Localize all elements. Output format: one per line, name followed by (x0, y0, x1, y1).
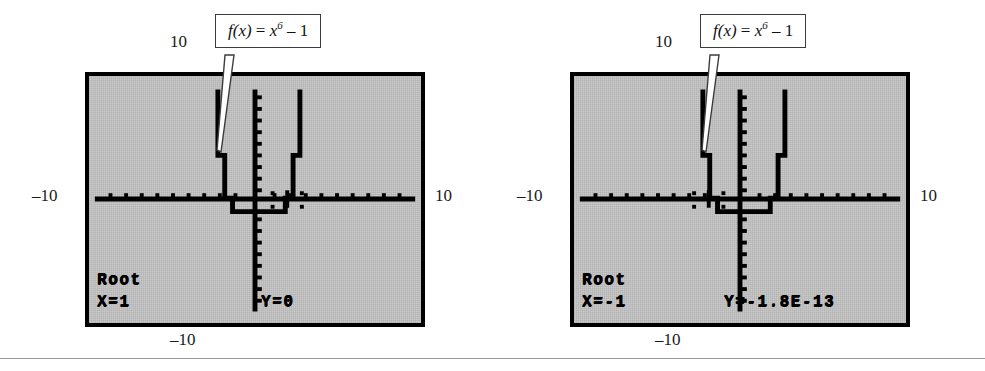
axis-label-bottom-left-panel: –10 (170, 330, 196, 350)
axis-label-bottom-right-panel: –10 (655, 330, 681, 350)
figure-container: 10 –10 –10 10 f(x) = x6 – 1 (0, 0, 985, 371)
readout-x-right: X=-1 (582, 294, 626, 311)
readout-title-left: Root (97, 272, 141, 289)
readout-y-right: Y=-1.8E-13 (724, 294, 835, 311)
readout-x-left: X=1 (97, 294, 130, 311)
axis-label-left-left-panel: –10 (32, 186, 58, 206)
calculator-panel-left: 10 –10 –10 10 f(x) = x6 – 1 (10, 0, 480, 360)
callout-tail-right: – 1 (768, 21, 794, 40)
callout-tail-left: – 1 (283, 21, 309, 40)
readout-title-right: Root (582, 272, 626, 289)
axis-label-left-right-panel: –10 (517, 186, 543, 206)
calculator-screen-left[interactable]: Root X=1 Y=0 (85, 72, 425, 327)
callout-fn-right: f(x) (713, 21, 737, 40)
axis-label-right-left-panel: 10 (435, 186, 452, 206)
calculator-panel-right: 10 –10 –10 10 f(x) = x6 – 1 (495, 0, 965, 360)
readout-y-left: Y=0 (261, 294, 294, 311)
callout-eq-right: = (737, 21, 755, 40)
calculator-screen-right[interactable]: Root X=-1 Y=-1.8E-13 (570, 72, 910, 327)
axis-label-top-left-panel: 10 (170, 32, 187, 52)
callout-eq-left: = (252, 21, 270, 40)
axis-label-top-right-panel: 10 (655, 32, 672, 52)
function-callout-left: f(x) = x6 – 1 (215, 14, 321, 48)
figure-bottom-rule (0, 358, 985, 359)
axis-label-right-right-panel: 10 (920, 186, 937, 206)
callout-fn-left: f(x) (228, 21, 252, 40)
function-callout-right: f(x) = x6 – 1 (700, 14, 806, 48)
